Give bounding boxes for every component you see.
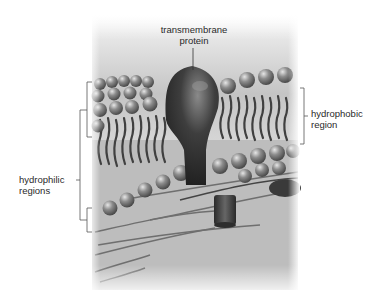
label-hydrophobic-region: hydrophobic region (311, 108, 363, 130)
protein-stub (214, 195, 236, 225)
label-transmembrane-protein: transmembrane protein (148, 24, 240, 46)
hydrophobic-bracket (300, 88, 308, 144)
label-hydrophilic-regions: hydrophilic regions (19, 174, 64, 196)
